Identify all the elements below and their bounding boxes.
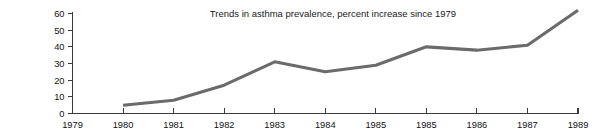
x-tick-label: 1989	[568, 120, 589, 130]
y-tick-label: 50	[54, 26, 64, 36]
chart-figure: Trends in asthma prevalence, percent inc…	[0, 0, 595, 137]
y-tick-label: 40	[54, 42, 64, 52]
y-axis-ticks: 0102030405060	[54, 9, 72, 119]
asthma-prevalence-line-chart: Trends in asthma prevalence, percent inc…	[0, 0, 595, 137]
chart-title: Trends in asthma prevalence, percent inc…	[210, 8, 456, 19]
x-tick-label: 1987	[517, 120, 538, 130]
y-tick-label: 0	[59, 109, 64, 119]
x-tick-label: 1985	[416, 120, 437, 130]
x-tick-label: 1983	[264, 120, 285, 130]
data-series-line	[123, 10, 578, 105]
x-tick-label: 1980	[113, 120, 134, 130]
x-tick-label: 1986	[467, 120, 488, 130]
x-tick-label: 1979	[62, 120, 83, 130]
y-tick-label: 30	[54, 59, 64, 69]
x-tick-label: 1982	[214, 120, 235, 130]
y-tick-label: 10	[54, 92, 64, 102]
x-tick-label: 1984	[315, 120, 336, 130]
x-axis-ticks: 1979198019811982198319841985198519861987…	[62, 108, 588, 130]
x-tick-label: 1981	[163, 120, 184, 130]
x-tick-label: 1985	[365, 120, 386, 130]
y-tick-label: 60	[54, 9, 64, 19]
y-tick-label: 20	[54, 76, 64, 86]
